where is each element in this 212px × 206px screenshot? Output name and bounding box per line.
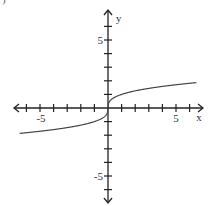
x-axis-label: x bbox=[196, 111, 202, 123]
y-tick-label: 5 bbox=[98, 34, 104, 46]
y-tick-label: -5 bbox=[94, 170, 104, 182]
y-axis-label: y bbox=[116, 12, 122, 24]
tick-labels: -555-5xy bbox=[36, 12, 202, 182]
cube-root-graph: -555-5xy bbox=[0, 0, 212, 206]
x-tick-label: 5 bbox=[173, 112, 179, 124]
x-tick-label: -5 bbox=[36, 112, 46, 124]
